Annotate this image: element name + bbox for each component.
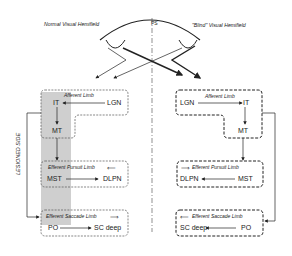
right-pursuit-to: DLPN <box>180 175 199 182</box>
left-saccade-from: PO <box>48 224 59 231</box>
svg-text:⟹: ⟹ <box>181 165 190 171</box>
optic-path-left-light <box>96 48 126 78</box>
right-pursuit-title: Efferent Pursuit Limb <box>192 164 239 170</box>
left-node-it: IT <box>53 99 60 106</box>
lesion-shade <box>41 92 71 225</box>
left-pursuit-to: DLPN <box>103 175 122 182</box>
right-connector <box>262 113 275 221</box>
left-eye-icon <box>106 40 125 48</box>
lesioned-side-label: LESIONED SIDE <box>15 132 21 175</box>
left-node-lgn: LGN <box>107 99 121 106</box>
svg-text:⟹: ⟹ <box>110 214 119 220</box>
left-pursuit-from: MST <box>47 175 63 182</box>
left-saccade-to: SC deep <box>94 224 121 232</box>
right-saccade-to: SC deep <box>180 224 207 232</box>
blind-hemifield-label: "Blind" Visual Hemifield <box>192 22 247 28</box>
right-node-mt: MT <box>238 127 249 134</box>
right-pursuit-from: MST <box>238 175 254 182</box>
optic-path-right-light <box>114 48 182 78</box>
right-afferent-title: Afferent Limb <box>204 93 235 99</box>
left-node-mt: MT <box>52 127 63 134</box>
lesioned-connector <box>27 113 41 217</box>
visual-field-arc <box>100 20 200 40</box>
left-saccade-title: Efferent Saccade Limb <box>46 213 97 219</box>
normal-hemifield-label: Normal Visual Hemifield <box>44 21 100 27</box>
right-node-it: IT <box>243 99 250 106</box>
svg-text:⟸: ⟸ <box>107 165 116 171</box>
diagram: Normal Visual Hemifield "Blind" Visual H… <box>0 0 292 256</box>
right-saccade-from: PO <box>241 224 252 231</box>
right-saccade-title: Efferent Saccade Limb <box>192 213 243 219</box>
left-afferent-title: Afferent Limb <box>63 92 94 98</box>
right-node-lgn: LGN <box>180 99 194 106</box>
left-pursuit-title: Efferent Pursuit Limb <box>48 164 95 170</box>
svg-text:⟸: ⟸ <box>180 214 189 220</box>
